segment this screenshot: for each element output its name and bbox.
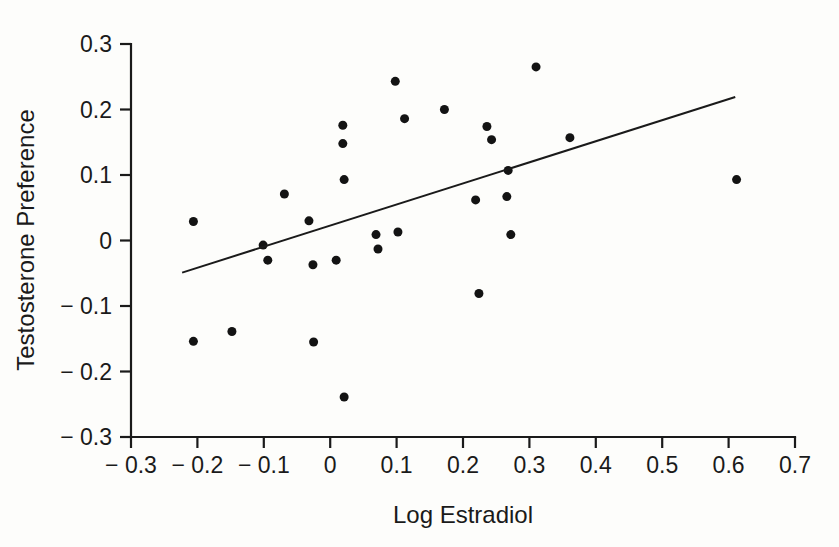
data-point bbox=[280, 189, 289, 198]
data-point bbox=[391, 77, 400, 86]
data-point bbox=[309, 338, 318, 347]
y-tick-label: 0.1 bbox=[80, 162, 112, 188]
data-point bbox=[440, 105, 449, 114]
data-point bbox=[338, 139, 347, 148]
x-tick-label: − 0.3 bbox=[105, 452, 157, 478]
data-point bbox=[471, 195, 480, 204]
data-point bbox=[393, 227, 402, 236]
data-point bbox=[487, 135, 496, 144]
y-tick-label: − 0.3 bbox=[60, 424, 112, 450]
tick-marks bbox=[120, 44, 795, 448]
data-point bbox=[506, 230, 515, 239]
y-tick-label: 0.2 bbox=[80, 97, 112, 123]
data-point bbox=[474, 289, 483, 298]
x-axis-title: Log Estradiol bbox=[393, 501, 533, 528]
y-axis-title: Testosterone Preference bbox=[12, 109, 39, 370]
axes bbox=[131, 44, 795, 437]
plot-canvas: − 0.3− 0.2− 0.100.10.20.30.40.50.60.7 0.… bbox=[0, 0, 839, 547]
data-point bbox=[227, 327, 236, 336]
x-tick-label: 0.4 bbox=[580, 452, 612, 478]
data-point bbox=[482, 122, 491, 131]
y-tick-label: 0.3 bbox=[80, 31, 112, 57]
data-point bbox=[189, 337, 198, 346]
x-tick-label: 0.3 bbox=[513, 452, 545, 478]
x-tick-label: 0 bbox=[324, 452, 337, 478]
y-tick-label: − 0.2 bbox=[60, 359, 112, 385]
y-tick-label: − 0.1 bbox=[60, 293, 112, 319]
scatter-plot-figure: − 0.3− 0.2− 0.100.10.20.30.40.50.60.7 0.… bbox=[0, 0, 839, 547]
data-point bbox=[340, 175, 349, 184]
axis-spines bbox=[131, 44, 795, 437]
regression-line bbox=[182, 97, 735, 273]
x-tick-label: 0.2 bbox=[447, 452, 479, 478]
x-tick-label: − 0.2 bbox=[172, 452, 224, 478]
data-point bbox=[338, 121, 347, 130]
x-tick-label: 0.1 bbox=[381, 452, 413, 478]
data-point bbox=[372, 230, 381, 239]
x-tick-label: − 0.1 bbox=[238, 452, 290, 478]
data-point bbox=[732, 175, 741, 184]
data-point bbox=[304, 216, 313, 225]
data-point bbox=[400, 114, 409, 123]
data-point bbox=[189, 217, 198, 226]
x-axis-tick-labels: − 0.3− 0.2− 0.100.10.20.30.40.50.60.7 bbox=[105, 452, 811, 478]
x-tick-label: 0.5 bbox=[646, 452, 678, 478]
data-point bbox=[502, 192, 511, 201]
data-point bbox=[532, 62, 541, 71]
y-axis-tick-labels: 0.30.20.10− 0.1− 0.2− 0.3 bbox=[60, 31, 112, 450]
data-point bbox=[374, 245, 383, 254]
data-points bbox=[189, 62, 741, 401]
data-point bbox=[332, 256, 341, 265]
x-tick-label: 0.6 bbox=[713, 452, 745, 478]
trend-line bbox=[182, 97, 735, 273]
y-tick-label: 0 bbox=[99, 228, 112, 254]
data-point bbox=[308, 260, 317, 269]
data-point bbox=[340, 393, 349, 402]
data-point bbox=[263, 256, 272, 265]
data-point bbox=[565, 133, 574, 142]
x-tick-label: 0.7 bbox=[779, 452, 811, 478]
